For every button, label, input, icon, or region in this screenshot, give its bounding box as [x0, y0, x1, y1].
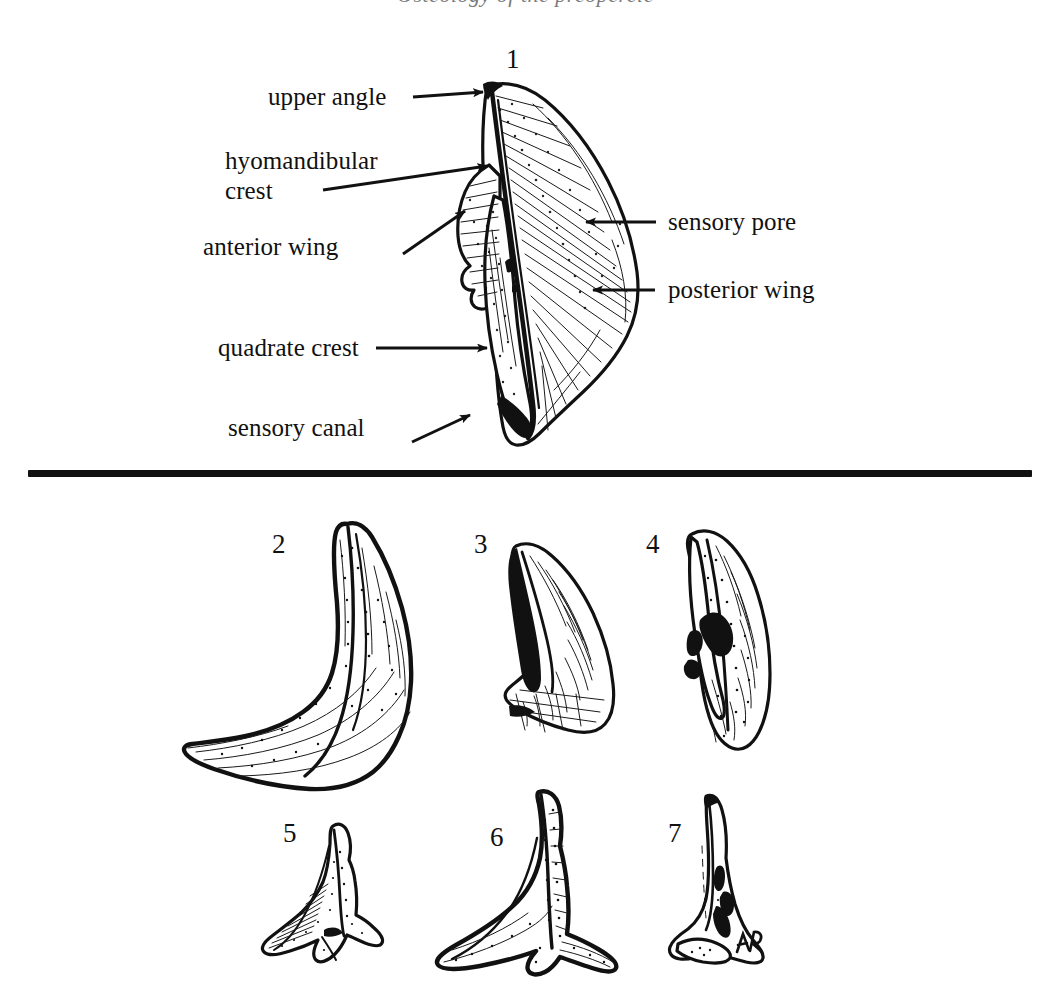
cut-off-header-text: Osteology of the preopercle	[0, 0, 1051, 8]
anatomical-plate: Osteology of the preopercle 1	[0, 0, 1051, 1002]
label-hyomandibular-crest: hyomandibular crest	[225, 146, 378, 206]
label-posterior-wing: posterior wing	[668, 275, 815, 305]
figure-number-6: 6	[490, 824, 504, 851]
label-sensory-canal: sensory canal	[228, 413, 365, 443]
label-sensory-pore: sensory pore	[668, 207, 796, 237]
figure-7-bone	[669, 794, 763, 963]
figure-number-4: 4	[646, 531, 660, 558]
figure-1-drawing	[0, 0, 1051, 1002]
label-quadrate-crest: quadrate crest	[218, 333, 359, 363]
signature-text: AR	[734, 930, 735, 931]
figure-2-bone	[184, 523, 411, 789]
horizontal-divider-rule	[28, 470, 1032, 477]
figure-3-bone	[505, 544, 613, 732]
figures-2-to-7-drawings	[0, 0, 1051, 1002]
figure-4-bone	[684, 531, 770, 749]
figure-number-7: 7	[668, 820, 682, 847]
artist-signature-monogram	[737, 932, 762, 952]
label-anterior-wing: anterior wing	[203, 232, 338, 262]
figure-1-leader-lines	[323, 92, 656, 442]
figure-number-5: 5	[283, 820, 297, 847]
label-upper-angle: upper angle	[268, 82, 386, 112]
figure-number-2: 2	[272, 531, 286, 558]
fig1-bone	[458, 82, 638, 446]
figure-number-3: 3	[474, 531, 488, 558]
figure-6-bone	[437, 791, 616, 974]
figure-number-1: 1	[506, 46, 520, 73]
figure-5-bone	[262, 824, 382, 962]
